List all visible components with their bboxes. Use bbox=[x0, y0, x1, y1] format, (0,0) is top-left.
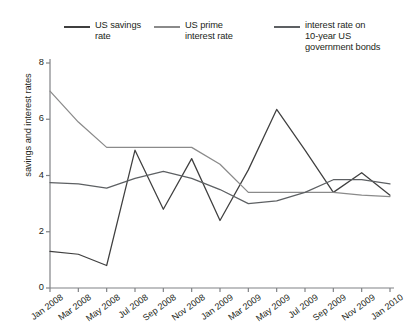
series-line-2 bbox=[50, 171, 390, 203]
series-line-1 bbox=[50, 91, 390, 196]
line-chart: US savings rate US prime interest rate i… bbox=[0, 0, 416, 332]
plot-area bbox=[0, 0, 416, 332]
x-axis-tick-labels: Jan 2008Mar 2008May 2008Jul 2008Sep 2008… bbox=[0, 292, 416, 332]
axis-lines bbox=[50, 59, 394, 288]
